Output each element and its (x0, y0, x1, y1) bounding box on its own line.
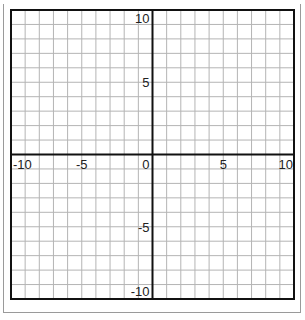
x-tick-label: -10 (13, 157, 32, 172)
x-tick-label: 10 (279, 157, 293, 172)
coordinate-grid-chart: -10-5510105-5-100 (0, 0, 305, 320)
x-tick-label: -5 (76, 157, 88, 172)
y-tick-label: -10 (131, 284, 150, 299)
origin-label: 0 (142, 157, 149, 172)
y-tick-label: 10 (135, 11, 149, 26)
y-tick-label: -5 (138, 220, 150, 235)
x-tick-label: 5 (220, 157, 227, 172)
y-tick-label: 5 (142, 75, 149, 90)
